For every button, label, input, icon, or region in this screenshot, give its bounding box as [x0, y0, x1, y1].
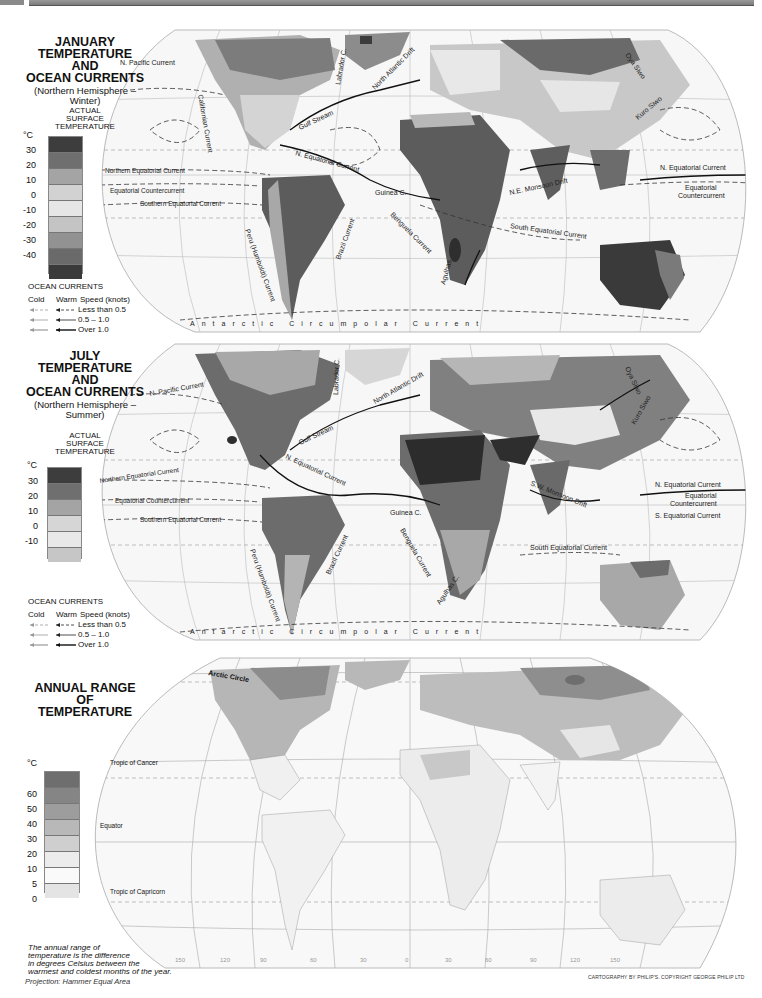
scale-tick: -40 [10, 250, 36, 260]
svg-text:30: 30 [360, 957, 367, 963]
warm-fast-arrow-icon [50, 327, 78, 333]
svg-text:Antarctic Circumpolar Current: Antarctic Circumpolar Current [190, 320, 485, 328]
svg-text:N. Equatorial Current: N. Equatorial Current [660, 164, 726, 172]
scale-swatch [45, 836, 79, 852]
unit-label: °C [23, 130, 33, 140]
scale-swatch [49, 137, 82, 153]
cold-medium-arrow-icon [28, 317, 50, 323]
svg-text:Equatorial Countercurrent: Equatorial Countercurrent [110, 187, 185, 195]
speed-label: Over 1.0 [78, 325, 109, 335]
legend-row-medium: 0.5 – 1.0 [28, 315, 130, 325]
scale-swatch [49, 185, 82, 201]
scale-swatch [45, 820, 79, 836]
scale-bar [47, 467, 82, 559]
legend-row-medium: 0.5 – 1.0 [28, 630, 130, 640]
subtitle-line: Winter) [15, 96, 155, 106]
july-temperature-scale: °C 30 20 10 0 -10 [0, 460, 90, 560]
svg-text:Countercurrent: Countercurrent [670, 500, 717, 507]
cold-slow-arrow-icon [28, 307, 50, 313]
svg-text:120: 120 [570, 957, 581, 963]
july-panel: N. Pacific Current Northern Equatorial C… [0, 340, 762, 650]
heading-line: TEMPERATURE [15, 448, 155, 456]
legend-row-slow: Less than 0.5 [28, 305, 130, 315]
svg-text:S. Equatorial Current: S. Equatorial Current [655, 512, 720, 520]
legend-header-row: Cold Warm Speed (knots) [28, 295, 130, 305]
scale-tick: 0 [11, 894, 37, 904]
annual-range-scale: °C 60 50 40 30 20 10 5 0 [0, 758, 90, 898]
scale-tick: 10 [11, 864, 37, 874]
scale-tick: -10 [12, 536, 38, 546]
title-line: TEMPERATURE [20, 706, 150, 718]
january-panel: N. Pacific Current Northern Equatorial C… [0, 0, 762, 340]
svg-text:Tropic of Cancer: Tropic of Cancer [110, 759, 159, 767]
warm-slow-arrow-icon [50, 622, 78, 628]
svg-text:Equator: Equator [100, 822, 124, 830]
svg-text:South Equatorial Current: South Equatorial Current [530, 544, 607, 552]
scale-swatch [45, 884, 79, 898]
scale-tick: 5 [11, 879, 37, 889]
scale-swatch [49, 249, 82, 265]
subtitle-line: Summer) [15, 410, 155, 420]
svg-text:Tropic of Capricorn: Tropic of Capricorn [110, 888, 165, 896]
svg-text:120: 120 [220, 957, 231, 963]
scale-tick: 30 [12, 476, 38, 486]
svg-text:150: 150 [610, 957, 621, 963]
speed-column-label: Speed (knots) [80, 295, 130, 305]
july-legend: JULY TEMPERATURE AND OCEAN CURRENTS (Nor… [15, 350, 155, 456]
january-scale-heading: ACTUAL SURFACE TEMPERATURE [15, 107, 155, 131]
january-ocean-currents-legend: OCEAN CURRENTS Cold Warm Speed (knots) L… [28, 282, 130, 335]
svg-text:60: 60 [485, 957, 492, 963]
january-title: JANUARY TEMPERATURE AND OCEAN CURRENTS [15, 36, 155, 84]
january-subtitle: (Northern Hemisphere – Winter) [15, 86, 155, 106]
july-scale-heading: ACTUAL SURFACE TEMPERATURE [15, 432, 155, 456]
legend-row-fast: Over 1.0 [28, 325, 130, 335]
speed-label: Less than 0.5 [78, 620, 126, 630]
scale-swatch [45, 804, 79, 820]
scale-swatch [49, 169, 82, 185]
scale-swatch [45, 788, 79, 804]
cold-fast-arrow-icon [28, 642, 50, 648]
projection-label: Projection: Hammer Equal Area [25, 977, 130, 986]
scale-swatch [49, 217, 82, 233]
warm-column-label: Warm [50, 295, 80, 305]
svg-text:N. Equatorial Current: N. Equatorial Current [655, 481, 721, 489]
scale-tick: 30 [11, 834, 37, 844]
copyright-credit: CARTOGRAPHY BY PHILIP'S. COPYRIGHT GEORG… [588, 974, 744, 980]
legend-header-row: Cold Warm Speed (knots) [28, 610, 130, 620]
svg-text:Labrador C.: Labrador C. [332, 358, 340, 395]
scale-swatch [48, 500, 81, 516]
unit-label: °C [27, 758, 37, 768]
unit-label: °C [27, 460, 37, 470]
july-subtitle: (Northern Hemisphere – Summer) [15, 400, 155, 420]
svg-text:Equatorial Countercurrent: Equatorial Countercurrent [115, 497, 190, 505]
scale-swatch [48, 468, 81, 484]
svg-text:30: 30 [445, 957, 452, 963]
scale-tick: 40 [11, 819, 37, 829]
speed-label: 0.5 – 1.0 [78, 630, 109, 640]
svg-text:Southern Equatorial Current: Southern Equatorial Current [140, 200, 221, 208]
july-ocean-currents-legend: OCEAN CURRENTS Cold Warm Speed (knots) L… [28, 597, 130, 650]
scale-bar [44, 771, 80, 893]
scale-tick: -20 [10, 220, 36, 230]
speed-label: Less than 0.5 [78, 305, 126, 315]
scale-swatch [45, 868, 79, 884]
scale-tick: -10 [10, 205, 36, 215]
january-legend: JANUARY TEMPERATURE AND OCEAN CURRENTS (… [15, 36, 155, 131]
scale-tick: 20 [12, 491, 38, 501]
scale-swatch [48, 484, 81, 500]
legend-row-slow: Less than 0.5 [28, 620, 130, 630]
legend-row-fast: Over 1.0 [28, 640, 130, 650]
scale-swatch [48, 548, 81, 562]
svg-text:Southern Equatorial Current: Southern Equatorial Current [140, 516, 221, 524]
scale-tick: 10 [10, 175, 36, 185]
cold-slow-arrow-icon [28, 622, 50, 628]
scale-swatch [45, 852, 79, 868]
scale-tick: 0 [12, 521, 38, 531]
cold-medium-arrow-icon [28, 632, 50, 638]
scale-swatch [45, 772, 79, 788]
scale-tick: 10 [12, 506, 38, 516]
scale-tick: 30 [10, 145, 36, 155]
svg-text:Equatorial: Equatorial [685, 492, 717, 500]
svg-text:Guinea C.: Guinea C. [375, 189, 407, 196]
scale-bar [48, 136, 83, 274]
